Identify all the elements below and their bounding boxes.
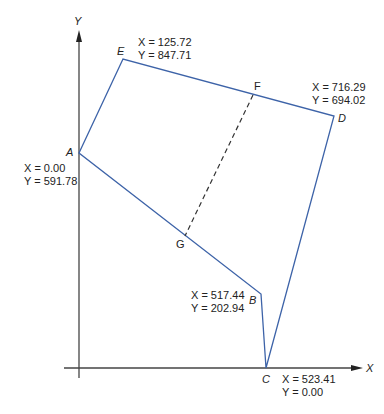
parcel-diagram: Y X A X = 0.00 Y = 591.78 E X = 125.72 Y… (0, 0, 384, 414)
x-axis-arrow-icon (351, 365, 363, 371)
vertex-d: D X = 716.29 Y = 694.02 (312, 81, 366, 124)
point-f: F (254, 80, 261, 92)
vertex-b: B X = 517.44 Y = 202.94 (191, 289, 256, 314)
vertex-label-c: C (262, 373, 270, 385)
vertex-b-y: Y = 202.94 (191, 302, 244, 314)
vertex-c-y: Y = 0.00 (282, 386, 323, 398)
vertex-a-y: Y = 591.78 (24, 175, 77, 187)
vertex-d-y: Y = 694.02 (312, 94, 365, 106)
y-axis-label: Y (74, 15, 82, 27)
vertex-label-e: E (117, 45, 125, 57)
x-axis-label: X (365, 362, 374, 374)
y-axis-arrow-icon (76, 30, 82, 42)
vertex-c-x: X = 523.41 (282, 373, 336, 385)
vertex-d-x: X = 716.29 (312, 81, 366, 93)
parcel-boundary (79, 59, 334, 368)
vertex-a: A X = 0.00 Y = 591.78 (24, 146, 77, 187)
vertex-label-b: B (249, 294, 256, 306)
vertex-e-x: X = 125.72 (138, 36, 192, 48)
point-label-g: G (176, 238, 185, 250)
dividing-line-fg (185, 95, 253, 236)
point-g: G (176, 238, 185, 250)
axes: Y X (64, 15, 374, 378)
vertex-label-d: D (338, 112, 346, 124)
vertex-c: C X = 523.41 Y = 0.00 (262, 373, 336, 398)
vertex-e-y: Y = 847.71 (138, 49, 191, 61)
point-label-f: F (254, 80, 261, 92)
vertex-a-x: X = 0.00 (24, 162, 65, 174)
vertex-e: E X = 125.72 Y = 847.71 (117, 36, 192, 61)
vertex-b-x: X = 517.44 (191, 289, 245, 301)
vertex-label-a: A (65, 146, 73, 158)
